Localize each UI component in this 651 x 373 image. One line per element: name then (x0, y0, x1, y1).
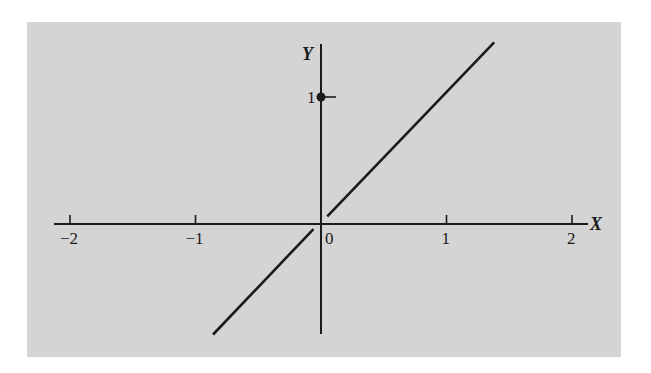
y-axis-label: Y (302, 44, 315, 64)
function-plot: −2−1012 1 X Y (0, 0, 651, 373)
x-axis-label: X (589, 214, 603, 234)
x-tick-label: 0 (325, 229, 334, 248)
x-tick-label: 1 (442, 229, 451, 248)
lower-branch (213, 229, 313, 334)
upper-branch (327, 42, 494, 216)
filled-point (317, 93, 326, 102)
y-tick-label: 1 (307, 88, 316, 107)
x-tick-label: −1 (186, 229, 204, 248)
x-tick-label: 2 (567, 229, 576, 248)
x-tick-label: −2 (60, 229, 78, 248)
